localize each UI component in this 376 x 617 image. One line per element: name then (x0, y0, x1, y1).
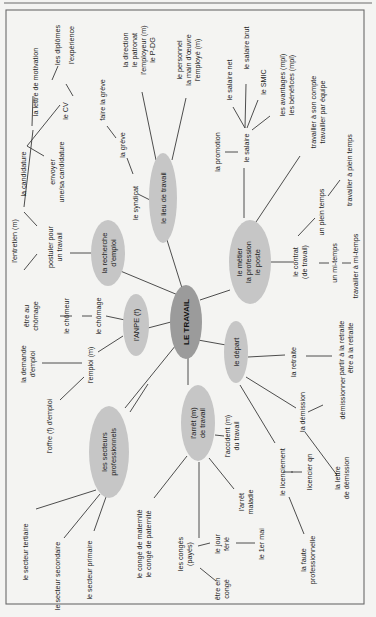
svg-text:l'entretien (m): l'entretien (m) (10, 219, 19, 263)
label-conge-maternite: le congé de maternité (135, 509, 144, 578)
svg-text:le poste: le poste (253, 249, 262, 275)
node-label: le métier (235, 247, 244, 276)
svg-text:un travail: un travail (55, 232, 64, 262)
label-accident: du travail (232, 421, 241, 451)
label-smic: le SMIC (259, 69, 268, 95)
svg-text:l'offre (f) d'emploi: l'offre (f) d'emploi (45, 398, 54, 453)
label-mi-temps: un mi-temps (330, 243, 339, 283)
svg-text:le salaire net: le salaire net (225, 60, 234, 101)
svg-text:du travail: du travail (232, 421, 241, 451)
svg-text:le congé de paternité: le congé de paternité (144, 510, 153, 577)
label-contrat: le contrat (291, 247, 300, 277)
svg-text:le 1er mai: le 1er mai (257, 528, 266, 560)
label-plein-temps: un plein temps (317, 188, 326, 235)
label-licencier: licencier qn (305, 454, 314, 490)
label-faute: la faute (299, 548, 308, 572)
node-recherche-emploi: la recherche d'emploi (91, 220, 125, 286)
label-main-oeuvre: la main d'œuvre (184, 34, 193, 85)
svg-text:l'arrêt (m): l'arrêt (m) (189, 407, 198, 438)
svg-text:envoyer: envoyer (48, 159, 57, 185)
label-candidature: la candidature (19, 151, 28, 196)
label-conges: les congés (176, 536, 185, 571)
svg-text:une/sa candidature: une/sa candidature (57, 141, 66, 202)
node-label: de travail (198, 408, 207, 438)
label-entretien: l'entretien (m) (10, 219, 19, 263)
label-arret-maladie: l'arrêt (237, 493, 246, 511)
node-label: les secteurs (100, 432, 109, 472)
svg-text:(payés): (payés) (185, 542, 194, 566)
label-faute: professionnelle (308, 536, 317, 584)
svg-text:l'accident (m): l'accident (m) (223, 415, 232, 458)
svg-text:les secteurs: les secteurs (100, 432, 109, 472)
svg-text:la faute: la faute (299, 548, 308, 572)
svg-text:le chômeur: le chômeur (62, 298, 71, 334)
label-envoyer: envoyer (48, 159, 57, 185)
svg-text:travailler par équipe: travailler par équipe (318, 80, 327, 143)
svg-text:les congés: les congés (176, 536, 185, 571)
svg-text:la lettre: la lettre (333, 466, 342, 490)
svg-text:être en: être en (213, 578, 222, 600)
svg-text:le congé de maternité: le congé de maternité (135, 509, 144, 578)
label-licenciement: le licenciement (278, 448, 287, 496)
label-lettre-motivation: la lettre de motivation (31, 48, 40, 116)
svg-text:un mi-temps: un mi-temps (330, 243, 339, 283)
svg-text:partir à la retraite: partir à la retraite (337, 321, 346, 375)
label-conges: (payés) (185, 542, 194, 566)
label-greve: la grève (118, 132, 127, 158)
label-syndicat: le syndicat (131, 186, 140, 220)
svg-text:d'emploi: d'emploi (28, 350, 37, 377)
svg-text:les diplômes: les diplômes (53, 25, 62, 65)
label-etre-chomage: chômage (31, 301, 40, 331)
svg-text:le salaire: le salaire (242, 134, 251, 163)
label-etre-chomage: être au (22, 305, 31, 327)
svg-text:le contrat: le contrat (291, 247, 300, 277)
svg-text:la candidature: la candidature (19, 151, 28, 196)
node-label: professionnels (109, 428, 118, 476)
label-benefices: les bénéfices (mpl) (287, 55, 296, 115)
mind-map-diagram: LE TRAVAIL la recherche d'emploi le lieu… (0, 0, 376, 617)
svg-text:les avantages (mpl): les avantages (mpl) (278, 54, 287, 117)
svg-text:l'expérience: l'expérience (67, 26, 76, 64)
svg-text:la lettre de motivation: la lettre de motivation (31, 48, 40, 116)
svg-text:la profession: la profession (244, 241, 253, 283)
svg-text:maladie: maladie (246, 489, 255, 514)
node-depart: le départ (224, 321, 248, 383)
svg-text:l'arrêt: l'arrêt (237, 493, 246, 511)
svg-text:démissionner: démissionner (338, 376, 347, 419)
svg-text:la promotion: la promotion (213, 132, 222, 172)
label-chomeur: le chômeur (62, 298, 71, 334)
svg-text:l'employé (m): l'employé (m) (193, 39, 202, 82)
label-secteur-secondaire: le secteur secondaire (53, 542, 62, 610)
label-travailler-plein-temps: travailler à plein temps (345, 134, 354, 206)
label-demissionner: démissionner (338, 376, 347, 419)
node-secteurs: les secteurs professionnels (89, 406, 129, 498)
label-pdg: le P-DG (148, 37, 157, 63)
label-salaire-net: le salaire net (225, 60, 234, 101)
svg-text:les bénéfices (mpl): les bénéfices (mpl) (287, 55, 296, 115)
svg-text:professionnelle: professionnelle (308, 536, 317, 584)
svg-text:le licenciement: le licenciement (278, 448, 287, 496)
svg-text:travailler à plein temps: travailler à plein temps (345, 134, 354, 206)
svg-text:l'ANPE (f): l'ANPE (f) (132, 309, 141, 341)
svg-text:la retraite: la retraite (289, 347, 298, 377)
label-contrat: (de travail) (300, 245, 309, 279)
label-avantages: les avantages (mpl) (278, 54, 287, 117)
node-label: le départ (232, 338, 241, 367)
label-jour-ferie: férié (222, 537, 231, 551)
svg-text:le métier: le métier (235, 247, 244, 276)
node-label: le poste (253, 249, 262, 275)
svg-text:le P-DG: le P-DG (148, 37, 157, 63)
svg-text:le personnel: le personnel (175, 40, 184, 80)
svg-text:licencier qn: licencier qn (305, 454, 314, 490)
label-secteur-tertiaire: le secteur tertiaire (21, 523, 30, 580)
node-label: le lieu de travail (159, 172, 168, 224)
svg-text:le patronat: le patronat (130, 33, 139, 67)
label-emploi: l'emploi (m) (86, 347, 95, 384)
node-arret-travail: l'arrêt (m) de travail (181, 385, 215, 461)
label-travailler-compte: travailler à son compte (309, 76, 318, 148)
label-postuler: un travail (55, 232, 64, 262)
label-premier-mai: le 1er mai (257, 528, 266, 560)
label-faire-greve: faire la grève (98, 79, 107, 121)
node-label: l'ANPE (f) (132, 309, 141, 341)
label-travailler-mi-temps: travailler à mi-temps (351, 233, 360, 298)
